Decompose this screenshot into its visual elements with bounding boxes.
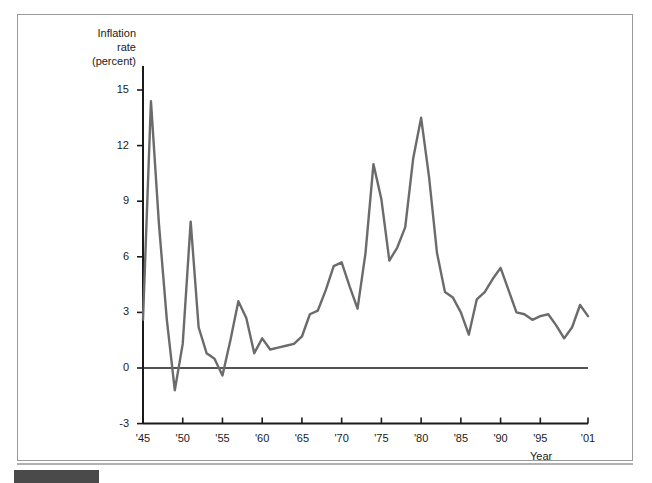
x-tick-label: '45: [126, 432, 160, 444]
x-tick-label: '60: [245, 432, 279, 444]
x-tick-label: '70: [325, 432, 359, 444]
y-tick-label: 15: [99, 83, 129, 95]
footer-accent-bar: [14, 470, 99, 483]
y-tick-label: 3: [99, 305, 129, 317]
x-axis-title: Year: [530, 449, 590, 463]
y-axis-title: Inflation rate (percent): [58, 26, 136, 68]
y-tick-label: -3: [99, 417, 129, 429]
y-tick-label: 0: [99, 361, 129, 373]
x-tick-label: '80: [404, 432, 438, 444]
x-tick-label: '55: [205, 432, 239, 444]
y-tick-label: 6: [99, 250, 129, 262]
x-tick-label: '01: [571, 432, 605, 444]
chart-figure: Inflation rate (percent) Year 15129630-3…: [0, 0, 652, 483]
x-tick-label: '85: [444, 432, 478, 444]
x-tick-label: '95: [523, 432, 557, 444]
bottom-divider-rule: [17, 463, 633, 465]
x-tick-label: '50: [166, 432, 200, 444]
chart-frame: [17, 14, 633, 461]
x-tick-label: '65: [285, 432, 319, 444]
y-tick-label: 9: [99, 194, 129, 206]
x-tick-label: '90: [484, 432, 518, 444]
y-tick-label: 12: [99, 139, 129, 151]
x-tick-label: '75: [364, 432, 398, 444]
